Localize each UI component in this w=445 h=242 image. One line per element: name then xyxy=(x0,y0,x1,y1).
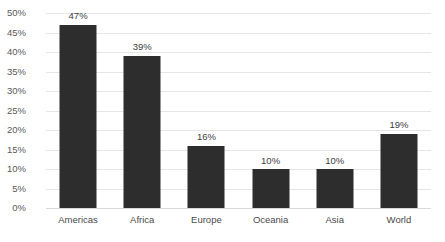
y-axis-tick-label: 35% xyxy=(0,67,26,77)
bar[interactable] xyxy=(252,169,289,208)
bar[interactable] xyxy=(380,134,417,208)
bar-value-label: 10% xyxy=(261,156,280,166)
y-axis-tick-label: 10% xyxy=(0,164,26,174)
bar-group: 10% xyxy=(239,13,303,208)
bar-group: 19% xyxy=(367,13,431,208)
bar-group: 39% xyxy=(110,13,174,208)
x-axis-tick-label: Africa xyxy=(130,215,154,225)
bar-value-label: 47% xyxy=(69,11,88,21)
y-axis-tick-label: 30% xyxy=(0,86,26,96)
y-axis-tick-label: 40% xyxy=(0,47,26,57)
bar[interactable] xyxy=(60,25,97,208)
x-axis-tick-label: Oceania xyxy=(253,215,288,225)
bar-group: 16% xyxy=(174,13,238,208)
bar-group: 10% xyxy=(303,13,367,208)
bar-value-label: 16% xyxy=(197,132,216,142)
y-axis-tick-label: 50% xyxy=(0,8,26,18)
bar-chart: 0%5%10%15%20%25%30%35%40%45%50% 47%39%16… xyxy=(0,0,445,242)
bar-series: 47%39%16%10%10%19% xyxy=(46,13,431,208)
y-axis-tick-label: 15% xyxy=(0,145,26,155)
bar-value-label: 39% xyxy=(133,42,152,52)
y-axis-tick-label: 20% xyxy=(0,125,26,135)
bar-value-label: 19% xyxy=(389,120,408,130)
y-axis-tick-label: 5% xyxy=(0,184,26,194)
bar-group: 47% xyxy=(46,13,110,208)
bar-value-label: 10% xyxy=(325,156,344,166)
bar[interactable] xyxy=(124,56,161,208)
y-axis-tick-label: 45% xyxy=(0,28,26,38)
x-axis-tick-label: Europe xyxy=(191,215,222,225)
bar[interactable] xyxy=(188,146,225,208)
x-axis-tick-label: Americas xyxy=(58,215,98,225)
axis-baseline xyxy=(46,208,431,209)
x-axis-tick-label: Asia xyxy=(326,215,344,225)
x-axis-tick-label: World xyxy=(387,215,412,225)
bar[interactable] xyxy=(316,169,353,208)
y-axis-tick-label: 0% xyxy=(0,203,26,213)
y-axis-tick-label: 25% xyxy=(0,106,26,116)
